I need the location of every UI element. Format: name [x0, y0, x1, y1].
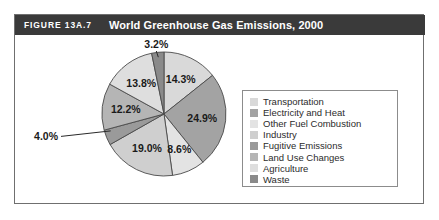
legend-item: Waste — [250, 174, 397, 185]
legend-item: Transportation — [250, 96, 397, 107]
pie-value-label: 19.0% — [132, 142, 162, 154]
legend-item: Electricity and Heat — [250, 107, 397, 118]
legend-swatch-agriculture — [250, 164, 258, 172]
chart-legend: Transportation Electricity and Heat Othe… — [242, 90, 398, 187]
legend-label: Waste — [263, 174, 290, 185]
legend-label: Other Fuel Combustion — [263, 118, 361, 129]
legend-label: Land Use Changes — [263, 152, 344, 163]
legend-label: Agriculture — [263, 163, 308, 174]
figure-title: World Greenhouse Gas Emissions, 2000 — [109, 19, 323, 31]
pie-value-label: 12.2% — [111, 103, 141, 115]
legend-label: Fugitive Emissions — [263, 140, 342, 151]
legend-item: Industry — [250, 129, 397, 140]
figure-header: FIGURE 13A.7 World Greenhouse Gas Emissi… — [15, 15, 425, 35]
legend-label: Transportation — [263, 96, 324, 107]
pie-value-label: 4.0% — [34, 130, 59, 142]
pie-value-label: 24.9% — [187, 112, 217, 124]
pie-chart: 14.3%24.9%8.6%19.0%4.0%12.2%13.8%3.2% — [15, 35, 255, 204]
legend-item: Other Fuel Combustion — [250, 118, 397, 129]
legend-label: Industry — [263, 129, 297, 140]
pie-chart-svg: 14.3%24.9%8.6%19.0%4.0%12.2%13.8%3.2% — [15, 35, 255, 204]
leader-line — [61, 131, 111, 137]
pie-value-label: 14.3% — [166, 73, 196, 85]
pie-value-label: 13.8% — [126, 77, 156, 89]
legend-swatch-industry — [250, 131, 258, 139]
figure-number: FIGURE 13A.7 — [24, 20, 92, 30]
legend-swatch-electricity-and-heat — [250, 109, 258, 117]
pie-value-label: 3.2% — [144, 38, 169, 50]
legend-swatch-fugitive-emissions — [250, 142, 258, 150]
legend-item: Agriculture — [250, 163, 397, 174]
legend-item: Land Use Changes — [250, 151, 397, 162]
figure-frame: FIGURE 13A.7 World Greenhouse Gas Emissi… — [14, 14, 424, 204]
legend-swatch-land-use-changes — [250, 153, 258, 161]
legend-item: Fugitive Emissions — [250, 140, 397, 151]
legend-swatch-transportation — [250, 98, 258, 106]
plot-body: 14.3%24.9%8.6%19.0%4.0%12.2%13.8%3.2% Tr… — [15, 35, 425, 204]
legend-label: Electricity and Heat — [263, 107, 345, 118]
legend-swatch-other-fuel-combustion — [250, 120, 258, 128]
pie-value-label: 8.6% — [167, 143, 192, 155]
legend-swatch-waste — [250, 175, 258, 183]
